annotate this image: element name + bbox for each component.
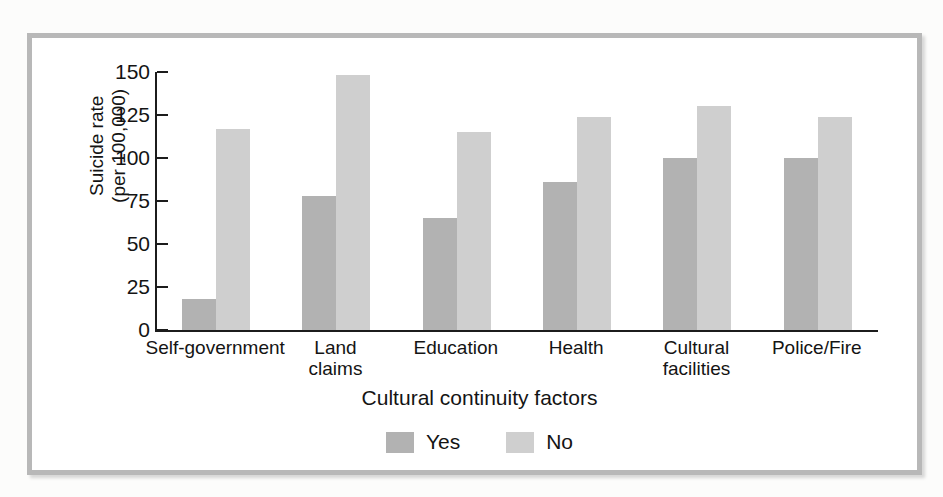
bar-group [757, 72, 877, 330]
y-axis-tick-label: 25 [90, 276, 150, 297]
bar-yes[interactable] [423, 218, 457, 330]
bar-yes[interactable] [182, 299, 216, 330]
x-axis-line [155, 330, 878, 332]
bar-group [396, 72, 516, 330]
plot-area [155, 72, 877, 330]
bar-no[interactable] [216, 129, 250, 330]
figure-inner-canvas: 1501251007550250 Suicide rate (per 100,0… [32, 38, 917, 470]
bar-group [636, 72, 756, 330]
bar-no[interactable] [577, 117, 611, 330]
bar-no[interactable] [336, 75, 370, 330]
x-axis-category-label: Police/Fire [739, 338, 895, 359]
bar-group [155, 72, 275, 330]
y-axis-tick-label: 0 [90, 319, 150, 340]
bar-yes[interactable] [302, 196, 336, 330]
bar-group [275, 72, 395, 330]
figure-frame: 1501251007550250 Suicide rate (per 100,0… [27, 33, 922, 475]
legend-item-no[interactable]: No [506, 430, 573, 454]
bar-no[interactable] [697, 106, 731, 330]
legend-swatch-no [506, 432, 534, 453]
bar-yes[interactable] [663, 158, 697, 330]
legend-label: No [546, 430, 573, 454]
bar-group [516, 72, 636, 330]
legend-swatch-yes [386, 432, 414, 453]
legend-item-yes[interactable]: Yes [386, 430, 460, 454]
bar-no[interactable] [818, 117, 852, 330]
y-axis-title: Suicide rate (per 100,000) [86, 56, 130, 236]
chart-legend: YesNo [32, 430, 927, 454]
y-axis-tick-label: 50 [90, 233, 150, 254]
legend-label: Yes [426, 430, 460, 454]
bar-yes[interactable] [543, 182, 577, 330]
bar-yes[interactable] [784, 158, 818, 330]
bar-no[interactable] [457, 132, 491, 330]
x-axis-title: Cultural continuity factors [32, 386, 927, 410]
